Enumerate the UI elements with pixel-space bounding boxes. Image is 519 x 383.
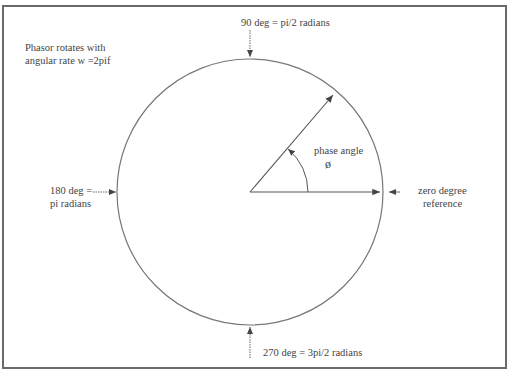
label-90-deg: 90 deg = pi/2 radians: [241, 16, 330, 29]
zero-degree-label-line1: zero degree: [418, 184, 467, 197]
phase-angle-arc: [288, 149, 308, 192]
rotation-note-line1: Phasor rotates with: [25, 41, 106, 54]
rotation-note-line2: angular rate w =2pif: [25, 54, 111, 67]
label-180-deg-line1: 180 deg =: [50, 184, 92, 197]
phase-angle-label: phase angle: [314, 144, 363, 157]
phase-angle-symbol: ø: [325, 158, 331, 171]
zero-degree-label-line2: reference: [423, 197, 462, 210]
label-180-deg-line2: pi radians: [50, 197, 91, 210]
label-270-deg: 270 deg = 3pi/2 radians: [263, 346, 362, 359]
